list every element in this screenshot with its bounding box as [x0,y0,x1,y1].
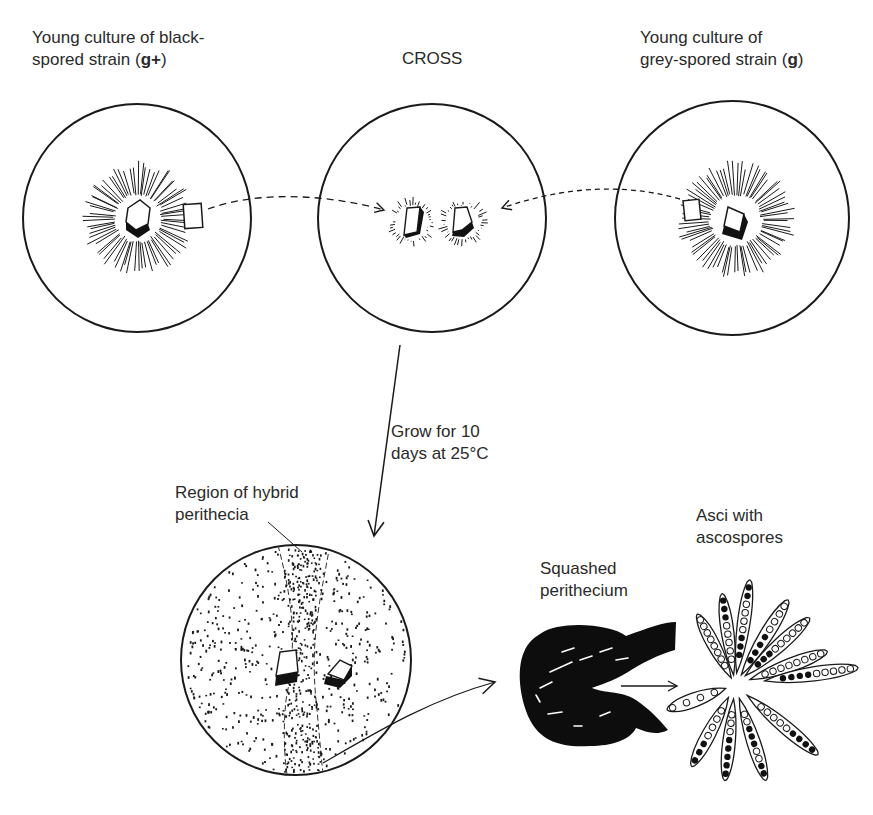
black-strain-label-line1: Young culture of black- [32,27,204,49]
grow-label-line1: Grow for 10 [391,421,489,443]
grey-strain-label-line1: Young culture of [640,27,803,49]
label-text: grey-spored strain ( [640,50,787,69]
squashed-perithecium-icon [520,622,677,746]
gene-symbol-gplus: g+ [141,50,161,69]
grow-label-line2: days at 25°C [391,443,489,465]
label-text: ) [798,50,804,69]
diagram-canvas [0,0,873,815]
grey-strain-label: Young culture of grey-spored strain (g) [640,27,803,71]
black-strain-plate [23,104,251,332]
asci-label-line1: Asci with [696,505,783,527]
gene-symbol-g: g [787,50,797,69]
black-strain-label: Young culture of black- spored strain (g… [32,27,204,71]
block-left-icon [275,650,298,686]
result-plate [181,522,495,780]
grow-condition-label: Grow for 10 days at 25°C [391,421,489,465]
grey-strain-plate [615,101,849,335]
squashed-perithecium-label: Squashed perithecium [540,558,628,602]
transfer-arrow-left [208,197,384,210]
sample-arrow [323,682,495,763]
asci-label-line2: ascospores [696,527,783,549]
inoculum-block-icon [126,200,150,238]
hybrid-region-label: Region of hybrid perithecia [175,482,299,526]
cut-agar-square-icon [683,199,701,221]
label-text: spored strain ( [32,50,141,69]
label-text: ) [161,50,167,69]
transfer-arrow-right [502,189,680,208]
squashed-label-line1: Squashed [540,558,628,580]
block-right-icon [452,207,474,237]
asci-with-ascospores-icon [665,579,859,783]
cross-label: CROSS [402,48,462,70]
inoculum-block-icon [722,207,748,240]
hybrid-region-label-line2: perithecia [175,504,299,526]
cross-plate [318,104,546,332]
grey-strain-label-line2: grey-spored strain (g) [640,49,803,71]
hybrid-region-label-line1: Region of hybrid [175,482,299,504]
cut-agar-square-icon [183,203,203,228]
block-right-icon [324,660,352,688]
black-strain-label-line2: spored strain (g+) [32,49,204,71]
squashed-label-line2: perithecium [540,580,628,602]
asci-label: Asci with ascospores [696,505,783,549]
block-left-icon [404,207,424,238]
